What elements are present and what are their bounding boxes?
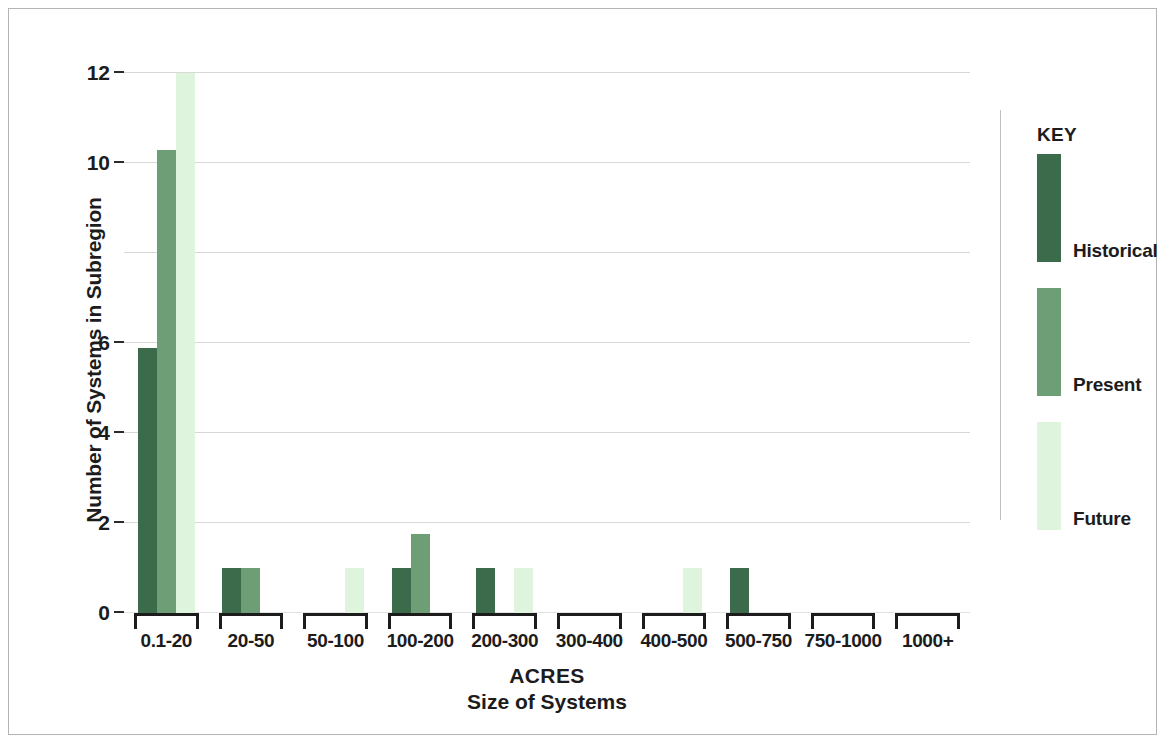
x-axis-bracket [811, 613, 876, 629]
bar-group [730, 73, 787, 613]
x-axis-bracket [726, 613, 791, 629]
x-axis-bracket [895, 613, 960, 629]
bar-group [815, 73, 872, 613]
bar-historical-20-50 [222, 568, 241, 613]
y-axis-tick-label: 10 [66, 151, 110, 175]
bar-future-400-500 [683, 568, 702, 613]
y-axis-tick-label: 2 [66, 511, 110, 535]
y-axis-tick-mark [114, 71, 124, 73]
y-axis-tick-mark [114, 521, 124, 523]
x-axis-tick-label: 750-1000 [801, 630, 886, 652]
bar-group [645, 73, 702, 613]
legend-entry-present: Present [1037, 288, 1157, 402]
bar-present-100-200 [411, 534, 430, 613]
bar-group [899, 73, 956, 613]
y-axis-title: Number of Systems in Subregion [82, 180, 106, 540]
bar-group [222, 73, 279, 613]
bar-historical-100-200 [392, 568, 411, 613]
chart-figure: Number of Systems in Subregion 02461012 … [0, 0, 1168, 753]
x-axis-tick-label: 20-50 [209, 630, 294, 652]
x-axis-tick-label: 100-200 [378, 630, 463, 652]
bar-future-50-100 [345, 568, 364, 613]
x-axis-bracket [303, 613, 368, 629]
x-axis-bracket [472, 613, 537, 629]
x-axis-bracket [642, 613, 707, 629]
y-axis-tick-label: 12 [66, 61, 110, 85]
bar-historical-0.1-20 [138, 348, 157, 614]
x-axis-title-primary: ACRES [124, 663, 970, 689]
x-axis-tick-label: 300-400 [547, 630, 632, 652]
legend-swatch-future [1037, 422, 1061, 530]
bar-future-0.1-20 [176, 73, 195, 613]
plot-area: 02461012 [124, 73, 970, 613]
legend-title: KEY [1037, 124, 1077, 146]
x-axis-tick-label: 50-100 [293, 630, 378, 652]
legend-entry-historical: Historical [1037, 154, 1157, 268]
x-axis-tick-label: 200-300 [462, 630, 547, 652]
bar-present-20-50 [241, 568, 260, 613]
legend-label-future: Future [1073, 508, 1131, 530]
y-axis-tick-label: 0 [66, 601, 110, 625]
bar-present-0.1-20 [157, 150, 176, 614]
legend-swatch-historical [1037, 154, 1061, 262]
legend-label-historical: Historical [1073, 240, 1158, 262]
bar-future-200-300 [514, 568, 533, 613]
x-axis-bracket [134, 613, 199, 629]
x-axis-tick-label: 500-750 [716, 630, 801, 652]
bar-group [476, 73, 533, 613]
bar-group [561, 73, 618, 613]
x-axis-tick-label: 0.1-20 [124, 630, 209, 652]
bar-historical-200-300 [476, 568, 495, 613]
y-axis-tick-label: 4 [66, 421, 110, 445]
legend-swatch-present [1037, 288, 1061, 396]
x-axis-title-secondary: Size of Systems [124, 689, 970, 715]
bar-group [138, 73, 195, 613]
x-axis-bracket [557, 613, 622, 629]
x-axis-tick-label: 400-500 [632, 630, 717, 652]
legend-label-present: Present [1073, 374, 1141, 396]
bar-group [392, 73, 449, 613]
y-axis-tick-mark [114, 341, 124, 343]
chart-legend: KEY HistoricalPresentFuture [1000, 110, 1150, 520]
x-axis-title: ACRES Size of Systems [124, 663, 970, 715]
y-axis-tick-label: 6 [66, 331, 110, 355]
bar-group [307, 73, 364, 613]
y-axis-tick-mark [114, 611, 124, 613]
y-axis-tick-mark [114, 161, 124, 163]
bars-layer [124, 73, 970, 613]
x-axis-bracket [219, 613, 284, 629]
x-axis-tick-labels: 0.1-2020-5050-100100-200200-300300-40040… [124, 630, 970, 660]
y-axis-tick-mark [114, 431, 124, 433]
x-axis-bracket [388, 613, 453, 629]
bar-historical-500-750 [730, 568, 749, 613]
x-axis-tick-label: 1000+ [885, 630, 970, 652]
legend-entry-future: Future [1037, 422, 1157, 536]
